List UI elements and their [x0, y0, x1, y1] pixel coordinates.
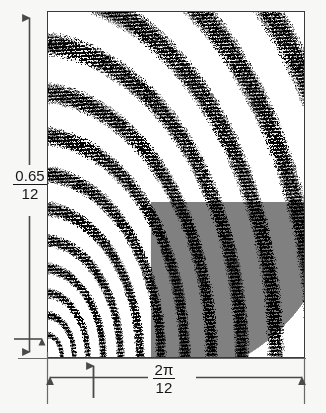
resonance-band-plot	[48, 12, 304, 357]
plot-frame	[47, 11, 305, 358]
y-axis-label: 0.65 12	[10, 168, 50, 203]
y-axis-label-numerator: 0.65	[13, 168, 47, 184]
x-axis-label-numerator: 2π	[153, 362, 176, 378]
x-axis-label-denominator: 12	[153, 378, 176, 395]
y-axis-label-denominator: 12	[13, 184, 47, 201]
x-axis-label: 2π 12	[134, 362, 194, 397]
resonance-band-figure: 0.65 12 2π 12	[0, 0, 326, 413]
